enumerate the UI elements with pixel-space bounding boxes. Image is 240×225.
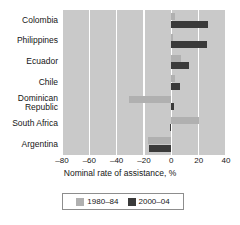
gridline xyxy=(116,10,117,155)
category-label: Ecuador xyxy=(0,57,58,67)
bar xyxy=(171,34,172,41)
bar xyxy=(171,13,175,20)
legend-entry: 2000–04 xyxy=(128,197,170,206)
bar xyxy=(129,96,171,103)
category-label: South Africa xyxy=(0,119,58,129)
bar xyxy=(171,103,174,110)
legend-entry: 1980–84 xyxy=(76,197,118,206)
dark-gray-swatch xyxy=(128,198,136,206)
legend-label: 1980–84 xyxy=(87,197,118,206)
bar xyxy=(171,41,207,48)
gridline xyxy=(198,10,199,155)
legend-label: 2000–04 xyxy=(139,197,170,206)
x-tick-label: 40 xyxy=(213,156,239,166)
plot-area xyxy=(62,10,226,155)
light-gray-swatch xyxy=(76,198,84,206)
bar xyxy=(170,124,171,131)
x-axis-title: Nominal rate of assistance, % xyxy=(0,168,240,179)
bar xyxy=(171,55,181,62)
chart-legend: 1980–842000–04 xyxy=(62,193,184,210)
x-tick-label: –80 xyxy=(49,156,75,166)
bar xyxy=(171,62,189,69)
category-label: Colombia xyxy=(0,16,58,26)
category-label: Dominican Republic xyxy=(0,94,58,113)
bar xyxy=(171,21,208,28)
x-axis-ticks: –80–60–40–2002040 xyxy=(62,155,226,169)
x-tick-label: –20 xyxy=(131,156,157,166)
bar xyxy=(171,117,198,124)
category-axis-labels: ColombiaPhilippinesEcuadorChileDominican… xyxy=(0,10,58,155)
x-tick-label: –40 xyxy=(104,156,130,166)
bar xyxy=(148,137,171,144)
x-tick-label: –60 xyxy=(76,156,102,166)
gridline xyxy=(89,10,90,155)
category-label: Argentina xyxy=(0,140,58,150)
category-label: Chile xyxy=(0,78,58,88)
bar xyxy=(171,75,175,82)
bar xyxy=(149,145,171,152)
gridline xyxy=(62,10,63,155)
chart-figure: ColombiaPhilippinesEcuadorChileDominican… xyxy=(0,0,240,225)
category-label: Philippines xyxy=(0,36,58,46)
gridline xyxy=(143,10,144,155)
x-tick-label: 20 xyxy=(186,156,212,166)
gridline xyxy=(225,10,226,155)
bar xyxy=(171,83,179,90)
x-tick-label: 0 xyxy=(158,156,184,166)
